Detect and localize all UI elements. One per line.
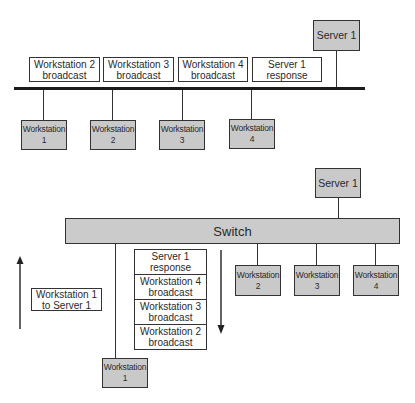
frame-line1: Workstation 2 <box>34 59 95 70</box>
bus-frame-workstation-2-broadcast: Workstation 2 broadcast <box>29 57 100 82</box>
bottom-workstation-3: Workstation 3 <box>294 265 340 296</box>
down-arrow-icon <box>215 250 227 334</box>
ws-number: 3 <box>315 281 320 292</box>
stack-frame-workstation-2-broadcast: Workstation 2 broadcast <box>135 325 206 349</box>
ws-label: Workstation <box>237 270 280 281</box>
bottom-ws1-stem <box>115 244 116 358</box>
bottom-server-stem <box>338 198 339 218</box>
frame-line1: Workstation 4 <box>183 59 244 70</box>
switch: Switch <box>65 218 400 244</box>
bus-frame-workstation-3-broadcast: Workstation 3 broadcast <box>103 57 174 82</box>
top-workstation-1: Workstation 1 <box>21 120 67 150</box>
frame-line1: Workstation 3 <box>108 59 169 70</box>
top-ws1-stem <box>43 90 44 120</box>
top-server-1-label: Server 1 <box>317 30 357 41</box>
ws-label: Workstation <box>92 124 135 135</box>
bottom-workstation-2: Workstation 2 <box>235 265 281 296</box>
frame-line2: broadcast <box>191 70 235 81</box>
bottom-server-1-label: Server 1 <box>318 178 358 189</box>
bottom-server-1: Server 1 <box>315 168 361 198</box>
frame-line1: Server 1 <box>152 251 190 262</box>
frame-line2: response <box>266 70 307 81</box>
ws-number: 2 <box>256 281 261 292</box>
bottom-ws2-stem <box>257 244 258 266</box>
top-workstation-4: Workstation 4 <box>229 119 275 149</box>
top-ws4-stem <box>251 90 252 120</box>
switch-label: Switch <box>213 224 251 239</box>
frame-line2: broadcast <box>43 70 87 81</box>
ws-number: 4 <box>250 134 255 145</box>
frame-line2: broadcast <box>149 337 193 348</box>
frame-line1: Server 1 <box>268 59 306 70</box>
ws-label: Workstation <box>231 123 274 134</box>
bus-frame-server-1-response: Server 1 response <box>252 57 322 82</box>
frame-line2: broadcast <box>149 312 193 323</box>
ws-number: 1 <box>42 135 47 146</box>
stack-frame-server-1-response: Server 1 response <box>135 250 206 275</box>
frame-line1: Workstation 1 <box>36 289 97 300</box>
top-ws3-stem <box>182 90 183 120</box>
top-server-stem <box>336 51 337 88</box>
bottom-ws3-stem <box>316 244 317 266</box>
bottom-ws4-stem <box>375 244 376 266</box>
stack-frame-workstation-4-broadcast: Workstation 4 broadcast <box>135 275 206 300</box>
inbound-frame-stack: Server 1 response Workstation 4 broadcas… <box>134 249 207 350</box>
ws-label: Workstation <box>355 270 398 281</box>
frame-line2: to Server 1 <box>42 300 91 311</box>
ws-label: Workstation <box>104 362 147 373</box>
frame-workstation-1-to-server-1: Workstation 1 to Server 1 <box>31 288 102 311</box>
frame-line2: broadcast <box>149 287 193 298</box>
frame-line1: Workstation 2 <box>140 326 201 337</box>
top-workstation-2: Workstation 2 <box>90 120 136 150</box>
frame-line1: Workstation 4 <box>140 276 201 287</box>
ws-number: 3 <box>180 135 185 146</box>
frame-line1: Workstation 3 <box>140 301 201 312</box>
frame-line2: response <box>150 262 191 273</box>
ws-label: Workstation <box>296 270 339 281</box>
stack-frame-workstation-3-broadcast: Workstation 3 broadcast <box>135 300 206 325</box>
up-arrow-icon <box>14 256 26 330</box>
bottom-workstation-4: Workstation 4 <box>353 265 399 296</box>
top-workstation-3: Workstation 3 <box>159 120 205 150</box>
ws-label: Workstation <box>161 124 204 135</box>
top-ws2-stem <box>112 90 113 120</box>
ws-label: Workstation <box>23 124 66 135</box>
frame-line2: broadcast <box>117 70 161 81</box>
bottom-workstation-1: Workstation 1 <box>102 358 148 388</box>
ws-number: 4 <box>374 281 379 292</box>
top-server-1: Server 1 <box>313 20 360 51</box>
bus-frame-workstation-4-broadcast: Workstation 4 broadcast <box>178 57 248 82</box>
ws-number: 1 <box>123 373 128 384</box>
shared-bus-line <box>14 87 365 90</box>
ws-number: 2 <box>111 135 116 146</box>
